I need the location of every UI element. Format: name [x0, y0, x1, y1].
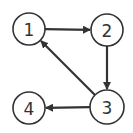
node-label: 3 — [102, 98, 113, 118]
graph-canvas: 1 2 3 4 — [0, 0, 133, 133]
node-3: 3 — [90, 90, 124, 124]
edge-1-to-2 — [45, 29, 90, 30]
node-1: 1 — [13, 13, 45, 45]
node-4: 4 — [13, 92, 45, 124]
edge-3-to-1 — [41, 41, 95, 95]
node-label: 2 — [102, 21, 113, 41]
node-label: 1 — [24, 20, 35, 40]
graph-diagram: 1 2 3 4 — [0, 0, 133, 133]
edge-3-to-4 — [46, 107, 90, 108]
node-2: 2 — [91, 14, 123, 46]
node-label: 4 — [24, 99, 35, 119]
